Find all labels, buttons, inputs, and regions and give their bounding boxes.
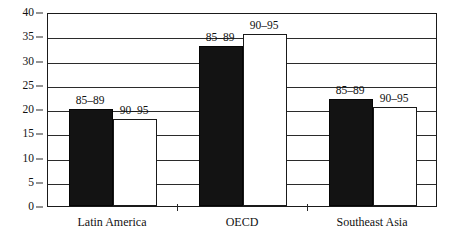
y-axis-tick-mark — [36, 110, 43, 111]
y-axis-tick-mark — [36, 207, 43, 208]
series-label-90-95: 90–95 — [120, 105, 149, 117]
series-label-90-95: 90–95 — [380, 93, 409, 105]
y-axis-tick-label: 0 — [28, 201, 34, 213]
series-label-90-95: 90–95 — [250, 20, 279, 32]
bar-southeast-asia-90-95 — [373, 107, 417, 206]
series-label-85-89: 85–89 — [206, 32, 235, 44]
bar-oecd-90-95 — [243, 34, 287, 206]
x-axis-label-oecd: OECD — [226, 216, 259, 228]
bar-oecd-85-89 — [199, 46, 243, 206]
y-axis-tick-mark — [36, 158, 43, 159]
series-label-85-89: 85–89 — [336, 85, 365, 97]
x-axis-label-southeast-asia: Southeast Asia — [337, 216, 408, 228]
y-axis-tick-mark — [36, 85, 43, 86]
y-axis-tick-label: 20 — [23, 104, 35, 116]
x-axis-tick-mark — [307, 204, 308, 211]
y-axis-tick-label: 10 — [23, 153, 35, 165]
y-axis-tick-label: 5 — [28, 177, 34, 189]
y-axis: 0510152025303540 — [0, 0, 47, 239]
bar-latin-america-85-89 — [69, 109, 113, 206]
y-axis-tick-label: 25 — [23, 80, 35, 92]
y-axis-tick-label: 30 — [23, 56, 35, 68]
y-axis-tick-mark — [36, 182, 43, 183]
gridline — [48, 38, 436, 39]
plot-area — [47, 13, 437, 207]
y-axis-tick-mark — [36, 13, 43, 14]
y-axis-tick-label: 15 — [23, 129, 35, 141]
bar-southeast-asia-85-89 — [329, 99, 373, 206]
y-axis-tick-mark — [36, 134, 43, 135]
y-axis-tick-label: 40 — [23, 7, 35, 19]
y-axis-tick-mark — [36, 61, 43, 62]
y-axis-tick-label: 35 — [23, 32, 35, 44]
bar-chart: 0510152025303540 85–8990–95Latin America… — [0, 0, 462, 239]
y-axis-tick-mark — [36, 37, 43, 38]
bar-latin-america-90-95 — [113, 119, 157, 206]
x-axis-label-latin-america: Latin America — [78, 216, 147, 228]
x-axis-tick-mark — [177, 204, 178, 211]
series-label-85-89: 85–89 — [76, 95, 105, 107]
